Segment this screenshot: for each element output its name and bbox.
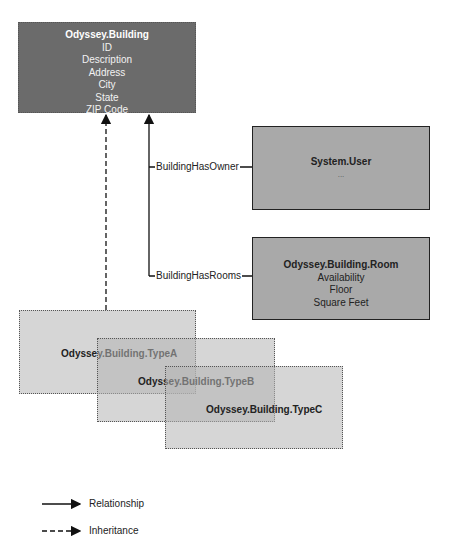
field: Floor	[253, 284, 429, 297]
field: Availability	[253, 272, 429, 285]
field: ID	[19, 42, 195, 55]
field: Address	[19, 67, 195, 80]
field: ...	[253, 169, 429, 182]
entity-system-user[interactable]: System.User ...	[252, 126, 430, 210]
field: Square Feet	[253, 297, 429, 310]
field: State	[19, 92, 195, 105]
entity-building-type-c[interactable]: Odyssey.Building.TypeC	[165, 366, 343, 449]
entity-title: System.User	[253, 156, 429, 169]
legend-inheritance: Inheritance	[89, 525, 138, 536]
field: Description	[19, 54, 195, 67]
entity-building-room[interactable]: Odyssey.Building.Room Availability Floor…	[252, 237, 430, 320]
entity-odyssey-building[interactable]: Odyssey.Building ID Description Address …	[18, 22, 196, 113]
entity-title: Odyssey.Building.TypeC	[206, 404, 342, 417]
field: City	[19, 79, 195, 92]
relationship-label-owner: BuildingHasOwner	[155, 161, 240, 172]
entity-title: Odyssey.Building.Room	[253, 259, 429, 272]
field: ZIP Code	[19, 104, 195, 117]
entity-title: Odyssey.Building	[19, 29, 195, 42]
relationship-label-rooms: BuildingHasRooms	[155, 270, 242, 281]
legend-relationship: Relationship	[89, 498, 144, 509]
